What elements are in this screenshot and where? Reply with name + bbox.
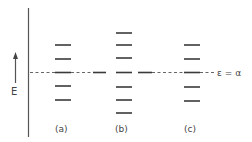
column-b-label: (b) [115, 124, 128, 134]
column-b-levels [116, 33, 132, 113]
reference-label: ε = α [217, 68, 241, 78]
energy-level-diagram: E ε = α [0, 0, 252, 142]
column-a-levels [55, 45, 71, 100]
energy-axis-label: E [11, 86, 17, 97]
column-c-levels [184, 45, 200, 101]
energy-arrow-icon [13, 52, 18, 83]
column-a-label: (a) [55, 124, 68, 134]
column-c-label: (c) [184, 124, 196, 134]
diagram-svg: E ε = α [0, 0, 252, 142]
